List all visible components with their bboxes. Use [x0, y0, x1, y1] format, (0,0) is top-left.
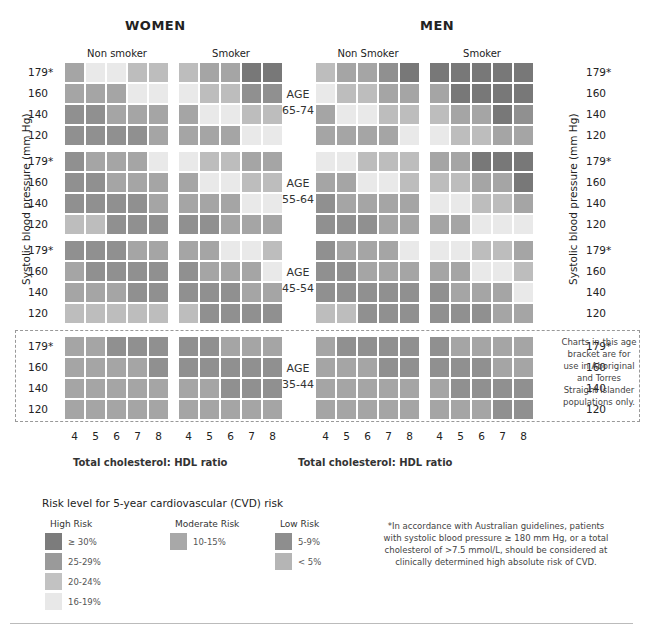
risk-cell: [493, 126, 512, 145]
risk-cell: [430, 262, 449, 281]
x-tick: 6: [472, 430, 491, 442]
risk-cell: [149, 283, 168, 302]
risk-cell: [400, 215, 419, 234]
x-tick: 8: [400, 430, 419, 442]
risk-cell: [86, 194, 105, 213]
risk-cell: [337, 400, 356, 419]
risk-cell: [242, 215, 261, 234]
risk-cell: [128, 152, 147, 171]
risk-cell: [65, 152, 84, 171]
risk-cell: [263, 63, 282, 82]
risk-cell: [472, 283, 491, 302]
risk-cell: [149, 337, 168, 356]
x-axis-label-men: Total cholesterol: HDL ratio: [298, 457, 452, 468]
risk-cell: [337, 173, 356, 192]
risk-cell: [337, 304, 356, 323]
risk-cell: [221, 126, 240, 145]
risk-cell: [400, 63, 419, 82]
risk-cell: [493, 215, 512, 234]
risk-cell: [128, 283, 147, 302]
risk-grid-women_smoker-55-64: [179, 152, 282, 234]
legend-item: 5-9%: [275, 533, 320, 550]
bp-label-left: 140: [28, 382, 60, 394]
risk-grid-men_smoker-35-44: [430, 337, 533, 419]
risk-cell: [472, 215, 491, 234]
risk-cell: [200, 173, 219, 192]
risk-cell: [149, 126, 168, 145]
risk-cell: [379, 63, 398, 82]
risk-cell: [379, 358, 398, 377]
risk-cell: [400, 105, 419, 124]
legend-title: Risk level for 5-year cardiovascular (CV…: [42, 497, 283, 509]
risk-cell: [107, 215, 126, 234]
risk-cell: [493, 105, 512, 124]
risk-cell: [472, 126, 491, 145]
risk-cell: [514, 126, 533, 145]
risk-cell: [221, 337, 240, 356]
col-header-women-smoker: Smoker: [179, 48, 283, 59]
x-tick: 6: [358, 430, 377, 442]
risk-cell: [65, 84, 84, 103]
risk-cell: [149, 379, 168, 398]
risk-cell: [472, 379, 491, 398]
x-tick: 7: [128, 430, 147, 442]
x-tick: 7: [379, 430, 398, 442]
risk-cell: [337, 126, 356, 145]
risk-cell: [128, 215, 147, 234]
risk-cell: [221, 173, 240, 192]
risk-cell: [200, 126, 219, 145]
risk-cell: [65, 194, 84, 213]
risk-cell: [358, 173, 377, 192]
risk-cell: [263, 400, 282, 419]
risk-cell: [379, 262, 398, 281]
legend-swatch: [45, 533, 62, 550]
risk-cell: [514, 173, 533, 192]
risk-cell: [379, 126, 398, 145]
risk-cell: [451, 337, 470, 356]
bp-label-left: 160: [28, 87, 60, 99]
risk-cell: [263, 126, 282, 145]
risk-cell: [107, 194, 126, 213]
x-axis-label-women: Total cholesterol: HDL ratio: [73, 457, 227, 468]
risk-cell: [128, 262, 147, 281]
risk-cell: [65, 379, 84, 398]
risk-cell: [337, 152, 356, 171]
legend-group-heading: Moderate Risk: [175, 519, 239, 529]
risk-cell: [149, 173, 168, 192]
risk-cell: [149, 262, 168, 281]
risk-cell: [451, 379, 470, 398]
risk-cell: [472, 105, 491, 124]
risk-cell: [200, 283, 219, 302]
men-heading: MEN: [420, 18, 454, 33]
risk-cell: [379, 105, 398, 124]
risk-cell: [221, 152, 240, 171]
risk-cell: [430, 358, 449, 377]
risk-cell: [337, 283, 356, 302]
risk-cell: [514, 358, 533, 377]
risk-cell: [472, 241, 491, 260]
risk-cell: [400, 283, 419, 302]
col-header-men-nonsmoker: Non Smoker: [316, 48, 420, 59]
risk-cell: [358, 152, 377, 171]
x-tick: 6: [221, 430, 240, 442]
risk-cell: [514, 283, 533, 302]
risk-grid-women_smoker-65-74: [179, 63, 282, 145]
risk-cell: [128, 400, 147, 419]
legend-group-heading: Low Risk: [280, 519, 319, 529]
risk-cell: [179, 400, 198, 419]
risk-cell: [179, 173, 198, 192]
divider: [10, 623, 633, 624]
x-tick: 6: [107, 430, 126, 442]
bp-label-right: 160: [586, 176, 618, 188]
aboriginal-note: Charts in this age bracket are for use i…: [560, 336, 638, 408]
bp-label-left: 179*: [28, 244, 60, 256]
bp-label-right: 120: [586, 307, 618, 319]
risk-cell: [200, 241, 219, 260]
risk-cell: [451, 215, 470, 234]
risk-cell: [430, 283, 449, 302]
risk-cell: [514, 194, 533, 213]
bp-label-right: 120: [586, 218, 618, 230]
risk-cell: [86, 152, 105, 171]
risk-grid-men_smoker-45-54: [430, 241, 533, 323]
risk-cell: [128, 379, 147, 398]
